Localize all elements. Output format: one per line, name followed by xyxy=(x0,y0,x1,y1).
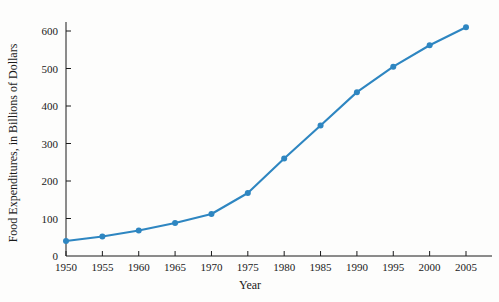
y-axis-tick-label: 300 xyxy=(28,138,58,150)
data-point-marker xyxy=(463,24,469,30)
y-axis-tick-label: 0 xyxy=(28,250,58,262)
x-axis-tick-label: 2000 xyxy=(419,261,441,273)
data-point-marker xyxy=(172,220,178,226)
y-axis-title: Food Expenditures, in Billions of Dollar… xyxy=(6,13,21,273)
line-chart: 0100200300400500600 19501955196019651970… xyxy=(0,0,499,302)
x-axis-tick-label: 1970 xyxy=(201,261,223,273)
x-axis-tick-label: 1995 xyxy=(382,261,404,273)
y-axis-tick-label: 100 xyxy=(28,213,58,225)
data-point-marker xyxy=(63,238,69,244)
data-point-marker xyxy=(281,156,287,162)
data-point-marker xyxy=(99,234,105,240)
x-axis-tick-label: 1950 xyxy=(55,261,77,273)
x-axis-tick-label: 1980 xyxy=(273,261,295,273)
data-point-marker xyxy=(136,228,142,234)
x-axis-tick-label: 1990 xyxy=(346,261,368,273)
tick-marks xyxy=(66,31,466,256)
y-axis-tick-label: 500 xyxy=(28,63,58,75)
y-axis-tick-label: 200 xyxy=(28,175,58,187)
data-point-marker xyxy=(245,190,251,196)
x-axis-tick-label: 1985 xyxy=(310,261,332,273)
data-point-marker xyxy=(390,64,396,70)
x-axis-tick-label: 1955 xyxy=(91,261,113,273)
x-axis-title: Year xyxy=(239,278,261,293)
data-line-food-expenditures xyxy=(66,27,466,241)
data-point-marker xyxy=(208,211,214,217)
data-point-marker xyxy=(318,123,324,129)
y-axis-tick-label: 400 xyxy=(28,100,58,112)
x-axis-tick-label: 1975 xyxy=(237,261,259,273)
data-point-marker xyxy=(427,42,433,48)
y-axis-tick-label: 600 xyxy=(28,25,58,37)
x-axis-tick-label: 2005 xyxy=(455,261,477,273)
axis-lines xyxy=(66,22,492,256)
data-point-marker xyxy=(354,89,360,95)
x-axis-tick-label: 1965 xyxy=(164,261,186,273)
x-axis-tick-label: 1960 xyxy=(128,261,150,273)
chart-plot-area xyxy=(0,0,499,302)
